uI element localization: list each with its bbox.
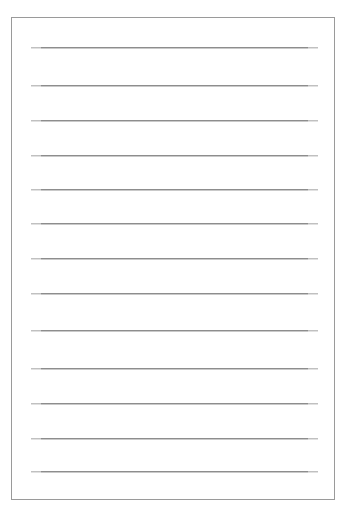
ruled-line	[31, 85, 318, 87]
ruled-line	[31, 120, 318, 122]
ruled-line	[31, 368, 318, 370]
ruled-line	[31, 471, 318, 473]
ruled-line	[31, 438, 318, 440]
ruled-lines-group	[11, 17, 335, 500]
ruled-line	[31, 47, 318, 49]
ruled-line	[31, 223, 318, 225]
ruled-line	[31, 293, 318, 295]
page-root	[0, 0, 346, 517]
ruled-line	[31, 155, 318, 157]
ruled-line	[31, 403, 318, 405]
ruled-line	[31, 189, 318, 191]
ruled-line	[31, 330, 318, 332]
ruled-line	[31, 258, 318, 260]
